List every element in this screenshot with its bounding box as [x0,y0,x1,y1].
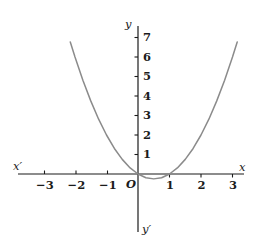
parabola-curve [70,42,237,179]
x-tick-label--1: −1 [99,180,117,192]
y-tick-label-1: 1 [143,149,151,161]
y-tick-label-3: 3 [143,110,151,122]
graph-canvas [0,0,259,252]
y-tick-label-2: 2 [143,130,151,142]
y-axis-label: y [125,19,132,31]
origin-label: O [126,179,136,191]
x-tick-label--3: −3 [36,180,54,192]
x-tick-label-1: 1 [166,180,174,192]
y-tick-label-5: 5 [143,71,151,83]
y-tick-label-4: 4 [143,91,151,103]
x-prime-axis-label: x′ [13,161,22,173]
parabola-graph-figure: −3 −2 −1 1 2 3 1 2 3 4 5 6 7 O x x′ y y′ [0,0,259,252]
x-tick-label-3: 3 [229,180,237,192]
x-axis-label: x [239,162,246,174]
x-tick-label-2: 2 [198,180,206,192]
y-prime-axis-label: y′ [142,224,151,236]
y-tick-label-7: 7 [143,32,151,44]
y-tick-label-6: 6 [143,52,151,64]
x-tick-label--2: −2 [68,180,86,192]
